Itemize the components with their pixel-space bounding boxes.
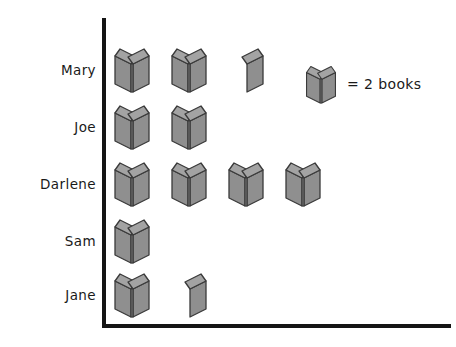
book-icon: [226, 158, 266, 208]
book-icon: [112, 158, 152, 208]
book-icon: [112, 215, 152, 265]
legend: = 2 books: [304, 62, 422, 105]
x-axis: [102, 324, 451, 328]
book-icon: [112, 269, 152, 319]
book-icon: [169, 101, 209, 151]
book-icon: [169, 44, 209, 94]
y-axis: [102, 18, 106, 328]
legend-label: = 2 books: [347, 76, 422, 92]
book-icon: [283, 158, 323, 208]
pictograph-chart: Mary Joe Darlene Sam Jane = 2 books: [0, 0, 456, 347]
category-label-sam: Sam: [0, 233, 96, 249]
category-label-joe: Joe: [0, 119, 96, 135]
category-label-mary: Mary: [0, 62, 96, 78]
category-label-jane: Jane: [0, 287, 96, 303]
half-book-icon: [169, 269, 209, 319]
category-label-darlene: Darlene: [0, 176, 96, 192]
book-icon: [112, 101, 152, 151]
book-icon: [169, 158, 209, 208]
book-icon: [304, 62, 338, 105]
book-icon: [112, 44, 152, 94]
category-labels: Mary Joe Darlene Sam Jane: [0, 0, 96, 347]
half-book-icon: [226, 44, 266, 94]
